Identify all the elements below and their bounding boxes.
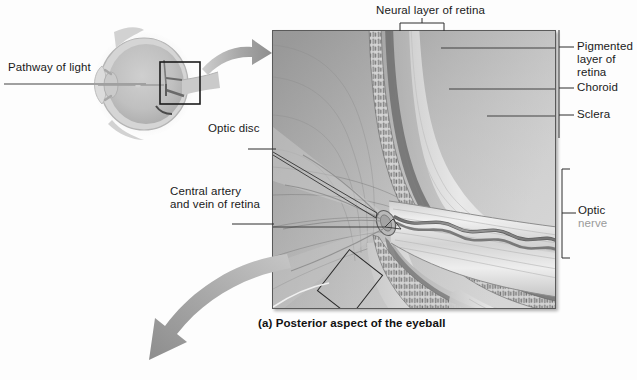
label-neural-layer-of-retina: Neural layer of retina [376,4,485,18]
label-optic-nerve-line1: Optic [578,204,605,218]
large-curved-arrow-icon [125,240,295,380]
optic-disc-leader [248,144,278,154]
label-central-artery-line2: and vein of retina [170,198,260,212]
label-pathway-of-light: Pathway of light [8,61,91,75]
magnified-panel [272,30,556,309]
label-optic-nerve-line2: nerve [578,217,607,231]
right-label-leader-lines [556,30,578,140]
label-pigmented-layer-line3: retina [577,66,606,80]
label-pigmented-layer-line2: layer of [577,53,616,67]
label-central-artery-line1: Central artery [170,185,241,199]
neural-layer-bracket-icon [396,18,448,34]
label-pigmented-layer-line1: Pigmented [577,40,633,54]
central-artery-leader [232,219,276,229]
label-sclera: Sclera [577,108,610,122]
figure-caption: (a) Posterior aspect of the eyeball [258,317,446,329]
figure-root: Pathway of light Neural layer of retina … [0,0,637,380]
curved-arrow-icon [200,33,280,93]
label-optic-disc: Optic disc [208,122,260,136]
label-choroid: Choroid [577,81,618,95]
posterior-eyeball-illustration [273,31,556,309]
